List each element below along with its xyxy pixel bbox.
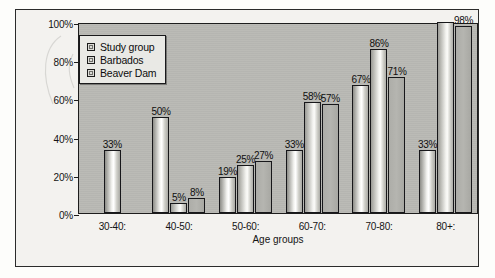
x-axis-tick-label: 40-50: — [165, 221, 192, 232]
bar-group: 67%86%71% — [346, 24, 413, 213]
legend-swatch-barbados — [87, 56, 95, 64]
bar-value-label: 19% — [218, 166, 237, 177]
bar-barbados — [437, 22, 454, 213]
bar-study-group: 67% — [352, 85, 369, 213]
chart-figure: 0%20%40%60%80%100% 33%50%5%8%19%25%27%33… — [0, 0, 495, 278]
bar-beaver-dam: 8% — [188, 198, 205, 213]
x-axis-tick-label: 30-40: — [99, 221, 126, 232]
x-axis-tick-label: 70-80: — [365, 221, 392, 232]
bar-value-label: 8% — [190, 187, 204, 198]
bar-barbados: 58% — [304, 102, 321, 213]
legend-label-barbados: Barbados — [100, 54, 143, 66]
bar-value-label: 58% — [303, 91, 322, 102]
bar-study-group: 33% — [104, 150, 121, 213]
legend-swatch-beaver-dam — [87, 69, 95, 77]
bar-value-label: 27% — [254, 150, 273, 161]
bar-barbados: 5% — [170, 203, 187, 213]
bar-beaver-dam: 71% — [388, 77, 405, 213]
bar-barbados: 25% — [237, 165, 254, 213]
bar-study-group: 50% — [152, 117, 169, 213]
bar-group: 33%98% — [412, 24, 479, 213]
legend-label-study-group: Study group — [100, 41, 154, 53]
legend-swatch-study-group — [87, 43, 95, 51]
bar-value-label: 71% — [387, 66, 406, 77]
bar-value-label: 57% — [321, 93, 340, 104]
bar-value-label: 33% — [103, 139, 122, 150]
x-axis-tick-label: 80+: — [436, 221, 455, 232]
bar-group: 33%58%57% — [279, 24, 346, 213]
bar-value-label: 33% — [285, 139, 304, 150]
legend-item-beaver-dam: Beaver Dam — [87, 66, 156, 79]
bar-beaver-dam: 98% — [455, 26, 472, 213]
bar-value-label: 67% — [351, 74, 370, 85]
bar-study-group: 33% — [286, 150, 303, 213]
bar-beaver-dam: 27% — [255, 161, 272, 213]
bar-value-label: 86% — [369, 38, 388, 49]
bar-barbados: 86% — [370, 49, 387, 213]
legend-item-study-group: Study group — [87, 40, 156, 53]
bar-study-group: 19% — [219, 177, 236, 213]
bar-beaver-dam: 57% — [322, 104, 339, 213]
chart-frame: 0%20%40%60%80%100% 33%50%5%8%19%25%27%33… — [15, 9, 479, 267]
legend-label-beaver-dam: Beaver Dam — [100, 67, 156, 79]
bar-value-label: 25% — [236, 154, 255, 165]
x-axis-tick-label: 50-60: — [232, 221, 259, 232]
bar-group: 19%25%27% — [212, 24, 279, 213]
bar-study-group: 33% — [419, 150, 436, 213]
x-axis-title: Age groups — [78, 234, 478, 245]
bar-value-label: 5% — [172, 192, 186, 203]
bar-value-label: 33% — [418, 139, 437, 150]
bar-value-label: 50% — [151, 106, 170, 117]
y-axis-tick-mark — [74, 215, 79, 216]
x-axis-tick-label: 60-70: — [299, 221, 326, 232]
legend-item-barbados: Barbados — [87, 53, 156, 66]
bar-value-label: 98% — [454, 15, 473, 26]
chart-legend: Study group Barbados Beaver Dam — [79, 35, 166, 84]
